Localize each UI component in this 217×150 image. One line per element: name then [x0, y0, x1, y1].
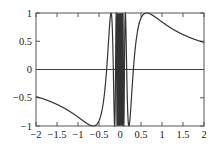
x-axis-tick-labels: −2−1.5−1−0.500.511.52 — [30, 129, 206, 140]
y-axis-tick-labels: −1−0.500.51 — [13, 8, 32, 132]
y-tick-label: 0 — [27, 64, 32, 75]
x-tick-label: 2 — [201, 129, 206, 140]
x-tick-label: 0 — [117, 129, 122, 140]
y-tick-label: 0.5 — [19, 36, 32, 47]
x-tick-label: −1 — [72, 129, 83, 140]
x-tick-label: −0.5 — [89, 129, 108, 140]
x-tick-label: 1.5 — [176, 129, 189, 140]
y-tick-label: −1 — [21, 121, 32, 132]
sin-inverse-x-chart: −2−1.5−1−0.500.511.52 −1−0.500.51 — [0, 0, 217, 150]
y-tick-label: −0.5 — [13, 92, 32, 103]
x-tick-label: 0.5 — [134, 129, 147, 140]
x-tick-label: −2 — [30, 129, 41, 140]
y-tick-label: 1 — [27, 8, 32, 19]
x-tick-label: −1.5 — [47, 129, 66, 140]
x-tick-label: 1 — [159, 129, 164, 140]
